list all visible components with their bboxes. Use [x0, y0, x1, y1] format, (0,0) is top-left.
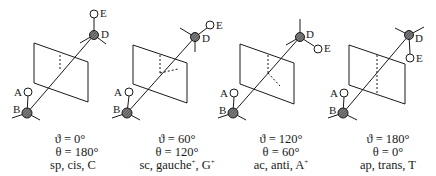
label-B: B: [13, 103, 20, 115]
atom-A: [340, 89, 348, 97]
label-E: E: [416, 52, 423, 64]
atom-E: [314, 45, 322, 53]
label-E: E: [100, 7, 107, 19]
label-E: E: [216, 19, 223, 31]
atom-E: [406, 54, 414, 62]
atom-B: [122, 108, 132, 118]
panel-sc: [112, 21, 214, 120]
panel-sp: [12, 10, 106, 120]
caption-ap: ϑ = 180° θ = 0° ap, trans, T: [333, 133, 436, 172]
label-B: B: [113, 103, 120, 115]
label-B: B: [219, 104, 226, 116]
atom-B: [22, 108, 32, 118]
projection-plane: [349, 45, 405, 104]
atom-D: [296, 33, 305, 42]
atom-A: [125, 88, 133, 96]
atom-D: [405, 31, 414, 40]
label-A: A: [220, 87, 228, 99]
conformation-names: sc, gauche+, G+: [122, 159, 232, 172]
label-D: D: [306, 28, 314, 40]
atom-B: [338, 108, 348, 118]
label-E: E: [324, 42, 331, 54]
atom-A: [230, 89, 238, 97]
atom-A: [24, 88, 32, 96]
conformation-names: ac, anti, A+: [226, 159, 336, 172]
atom-D: [90, 31, 99, 40]
label-D: D: [202, 32, 210, 44]
label-A: A: [114, 86, 122, 98]
panel-ap: [328, 27, 424, 120]
atom-D: [191, 33, 200, 42]
label-A: A: [330, 87, 338, 99]
caption-ac: ϑ = 120° θ = 60° ac, anti, A+: [226, 133, 336, 172]
conformation-names: ap, trans, T: [333, 159, 436, 172]
caption-sp: ϑ = 0° θ = 180° sp, cis, C: [18, 133, 128, 172]
caption-sc: ϑ = 60° θ = 120° sc, gauche+, G+: [122, 133, 232, 172]
atom-E: [206, 21, 214, 29]
conformation-names: sp, cis, C: [18, 159, 128, 172]
label-A: A: [14, 86, 22, 98]
projection-plane: [133, 45, 187, 103]
label-B: B: [329, 104, 336, 116]
label-D: D: [101, 28, 109, 40]
atom-E: [90, 10, 98, 18]
label-D: D: [415, 32, 423, 44]
atom-B: [228, 108, 238, 118]
